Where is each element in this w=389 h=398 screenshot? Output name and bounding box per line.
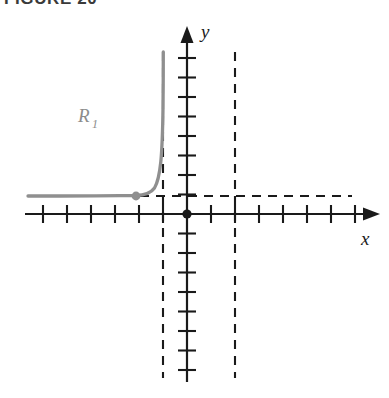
x-axis-arrowhead — [363, 208, 380, 221]
figure-container: FIGURE 20 — [0, 0, 389, 398]
y-axis — [178, 26, 196, 382]
curve-endpoint-dot — [132, 192, 141, 201]
region-label-r1: R — [77, 105, 90, 126]
y-axis-arrowhead — [181, 26, 194, 43]
coordinate-plot: y x R 1 — [0, 0, 389, 398]
region-label-r1-subscript: 1 — [92, 117, 98, 131]
origin-dot — [182, 209, 191, 218]
x-axis-label: x — [360, 228, 370, 249]
x-axis — [25, 205, 380, 223]
y-axis-label: y — [199, 21, 210, 42]
